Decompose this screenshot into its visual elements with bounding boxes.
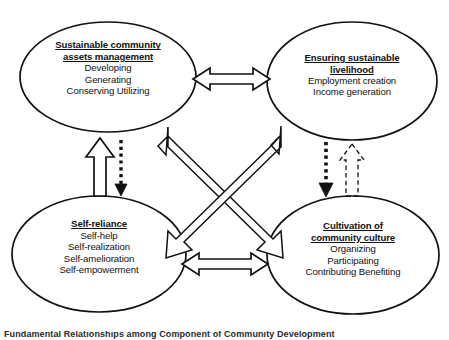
node-selfreliance[interactable]: Self-reliance Self-help Self-realization…: [12, 196, 186, 312]
node-selfreliance-line-4: Self-empowerment: [60, 264, 139, 275]
node-culture-line-1: Organizing: [330, 243, 375, 254]
node-selfreliance-line-3: Self-amelioration: [64, 253, 134, 264]
connector-right-down-head[interactable]: [319, 183, 333, 197]
node-assets-heading: Sustainable community assets management: [55, 39, 161, 62]
connector-left-down-head[interactable]: [115, 184, 127, 196]
node-selfreliance-line-2: Self-realization: [68, 241, 130, 252]
diagram-canvas: Sustainable community assets management …: [0, 0, 449, 340]
node-selfreliance-heading-line-1: Self-reliance: [71, 218, 127, 229]
node-selfreliance-text: Self-reliance Self-help Self-realization…: [60, 218, 139, 275]
node-culture-line-2: Participating: [327, 255, 379, 266]
node-livelihood-heading-line-2: livelihood: [330, 64, 374, 75]
figure-caption: Fundamental Relationships among Componen…: [0, 331, 449, 340]
node-livelihood-text: Ensuring sustainable livelihood Employme…: [304, 52, 399, 98]
node-culture-line-3: Contributing Benefiting: [306, 266, 401, 277]
node-culture-heading-line-2: community culture: [311, 232, 395, 243]
node-assets-line-3: Conserving Utilizing: [67, 85, 150, 96]
node-culture-heading: Cultivation of community culture: [306, 220, 401, 243]
node-livelihood-line-1: Employment creation: [308, 75, 396, 86]
node-culture-text: Cultivation of community culture Organiz…: [306, 220, 401, 277]
connector-top-horizontal[interactable]: [193, 68, 270, 90]
node-culture-heading-line-1: Cultivation of: [323, 220, 383, 231]
node-assets[interactable]: Sustainable community assets management …: [20, 22, 196, 132]
node-culture-body: Organizing Participating Contributing Be…: [306, 243, 401, 277]
node-selfreliance-body: Self-help Self-realization Self-ameliora…: [60, 230, 139, 276]
node-livelihood-heading-line-1: Ensuring sustainable: [304, 52, 399, 63]
node-livelihood[interactable]: Ensuring sustainable livelihood Employme…: [267, 22, 437, 140]
node-assets-line-2: Generating: [85, 74, 131, 85]
node-assets-body: Developing Generating Conserving Utilizi…: [55, 62, 161, 96]
connector-left-up[interactable]: [86, 138, 114, 196]
node-assets-heading-line-1: Sustainable community: [55, 39, 161, 50]
connector-bottom-horizontal[interactable]: [182, 253, 268, 275]
node-selfreliance-line-1: Self-help: [81, 230, 118, 241]
node-livelihood-body: Employment creation Income generation: [304, 75, 399, 98]
node-livelihood-line-2: Income generation: [313, 86, 391, 97]
node-assets-heading-line-2: assets management: [63, 51, 153, 62]
node-assets-line-1: Developing: [84, 62, 131, 73]
node-culture[interactable]: Cultivation of community culture Organiz…: [267, 196, 439, 314]
node-selfreliance-heading: Self-reliance: [60, 218, 139, 229]
connector-right-up[interactable]: [340, 144, 364, 196]
node-livelihood-heading: Ensuring sustainable livelihood: [304, 52, 399, 75]
figure-caption-text: Fundamental Relationships among Componen…: [4, 331, 335, 339]
node-assets-text: Sustainable community assets management …: [55, 39, 161, 96]
